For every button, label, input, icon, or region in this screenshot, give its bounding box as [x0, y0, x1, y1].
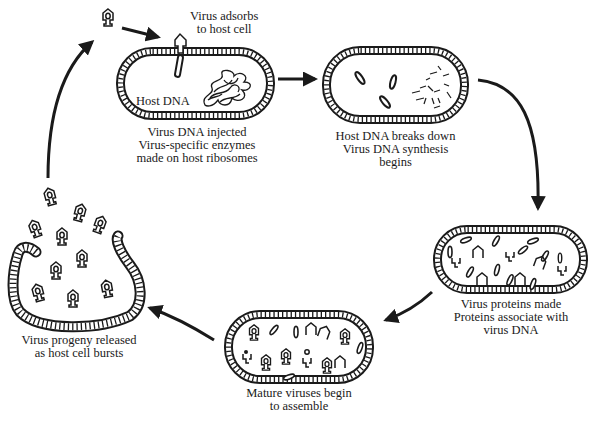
arrow-assemble-to-release	[150, 308, 214, 340]
label-host-dna: Host DNA	[136, 95, 190, 108]
label-line: virus DNA	[430, 324, 592, 337]
label-inject: Virus DNA injected Virus-specific enzyme…	[122, 126, 272, 165]
diagram-canvas	[0, 0, 599, 425]
free-virus-icon	[103, 9, 113, 26]
label-line: made on host ribosomes	[122, 152, 272, 165]
label-synthesis: Host DNA breaks down Virus DNA synthesis…	[318, 130, 473, 169]
label-line: to host cell	[190, 23, 258, 36]
label-line: Host DNA	[136, 95, 190, 108]
label-line: begins	[318, 156, 473, 169]
arrow-proteins-to-assemble	[386, 292, 432, 320]
label-proteins: Virus proteins made Proteins associate w…	[430, 298, 592, 337]
lytic-cycle-diagram: Virus adsorbs to host cell Host DNA Viru…	[0, 0, 599, 425]
arrow-to-adsorb	[122, 28, 158, 37]
label-release: Virus progeny released as host cell burs…	[4, 334, 154, 360]
arrow-synthesis-to-proteins	[478, 80, 538, 208]
cell-burst	[13, 187, 140, 327]
label-assemble: Mature viruses begin to assemble	[224, 387, 374, 413]
cell-synthesis	[323, 47, 468, 123]
label-line: to assemble	[224, 400, 374, 413]
arrow-release-to-free-virus	[48, 42, 92, 178]
label-adsorb: Virus adsorbs to host cell	[190, 10, 258, 36]
cell-assemble	[225, 311, 373, 383]
cell-proteins	[434, 226, 587, 293]
label-line: as host cell bursts	[4, 347, 154, 360]
